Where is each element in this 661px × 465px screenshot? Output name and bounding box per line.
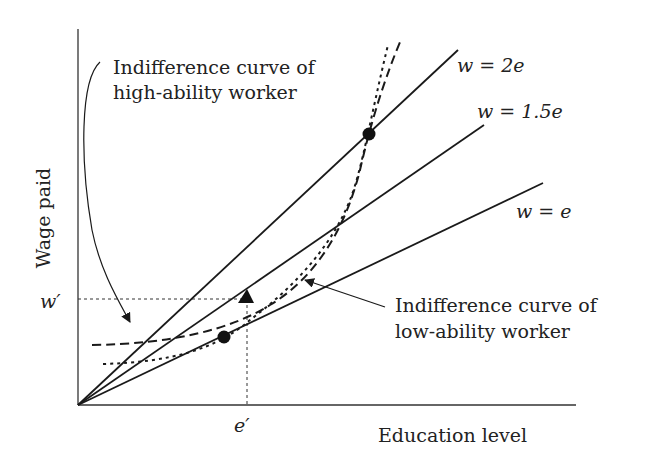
wage-line-2e-label: w = 2e: [457, 54, 525, 76]
high-ability-annotation-line1: Indifference curve of: [113, 56, 317, 78]
wage-line-1-5e: [78, 125, 484, 405]
low-ability-annotation-line2: low-ability worker: [395, 320, 571, 342]
wage-line-2e: [78, 50, 458, 405]
wage-line-e-label: w = e: [516, 200, 572, 222]
low-ability-annotation-line1: Indifference curve of: [395, 294, 599, 316]
e-prime-label: e′: [234, 414, 250, 436]
x-axis-label: Education level: [378, 424, 527, 446]
low-ability-point: [218, 331, 231, 344]
wage-line-1-5e-label: w = 1.5e: [477, 100, 563, 122]
y-axis-label: Wage paid: [32, 168, 54, 268]
high-curve-arrowhead-icon: [238, 289, 254, 303]
w-prime-label: w′: [40, 290, 61, 312]
low-ability-leader-arrow: [305, 280, 385, 307]
signaling-diagram: Wage paid Education level w = 2e w = 1.5…: [0, 0, 661, 465]
high-ability-annotation-line2: high-ability worker: [113, 81, 298, 103]
high-ability-point: [363, 128, 376, 141]
